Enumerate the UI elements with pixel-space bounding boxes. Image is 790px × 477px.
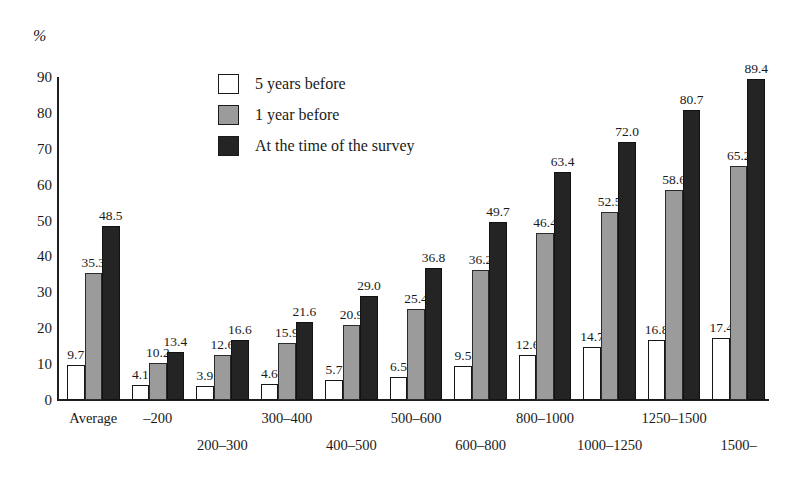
bar-group: 4.110.213.4 (132, 77, 185, 400)
bar-chart: % 0102030405060708090 5 years before1 ye… (0, 0, 790, 477)
bar-1 (601, 212, 619, 400)
bar-value-label: 6.5 (390, 359, 407, 375)
bar-1 (214, 355, 232, 400)
bar-2 (425, 268, 443, 400)
y-tick-80: 80 (10, 104, 52, 121)
x-category-label: 1500– (721, 437, 757, 454)
bar-value-label: 29.0 (357, 278, 381, 294)
bar-value-label: 5.7 (326, 362, 343, 378)
bar-1 (343, 325, 361, 400)
x-category-label: 300–400 (262, 410, 313, 427)
bar-1 (407, 309, 425, 400)
y-tick-60: 60 (10, 176, 52, 193)
bar-2 (747, 79, 765, 400)
bar-group: 3.912.616.6 (196, 77, 249, 400)
y-tick-10: 10 (10, 356, 52, 373)
bar-2 (489, 222, 507, 400)
bar-0 (648, 340, 666, 400)
bar-value-label: 89.4 (744, 61, 768, 77)
plot-area: 9.735.348.54.110.213.43.912.616.64.615.9… (59, 77, 769, 400)
bar-value-label: 63.4 (551, 154, 575, 170)
bar-0 (67, 365, 85, 400)
bar-0 (583, 347, 601, 400)
y-tick-90: 90 (10, 69, 52, 86)
bar-1 (665, 190, 683, 400)
bar-2 (683, 110, 701, 400)
bar-value-label: 72.0 (615, 124, 639, 140)
y-tick-20: 20 (10, 320, 52, 337)
bar-2 (231, 340, 249, 400)
bar-0 (390, 377, 408, 400)
bar-value-label: 13.4 (164, 334, 188, 350)
bar-0 (132, 385, 150, 400)
bar-value-label: 9.5 (455, 348, 472, 364)
bar-value-label: 21.6 (293, 304, 317, 320)
bar-group: 17.465.289.4 (712, 77, 765, 400)
bar-0 (712, 338, 730, 400)
bar-2 (167, 352, 185, 400)
bar-group: 9.735.348.5 (67, 77, 120, 400)
bar-1 (149, 363, 167, 400)
bar-0 (196, 386, 214, 400)
x-category-label: 1250–1500 (642, 410, 707, 427)
bar-group: 4.615.921.6 (261, 77, 314, 400)
y-tick-70: 70 (10, 140, 52, 157)
bar-value-label: 9.7 (67, 347, 84, 363)
bar-value-label: 36.8 (422, 250, 446, 266)
bar-group: 9.536.249.7 (454, 77, 507, 400)
bar-2 (360, 296, 378, 400)
bar-group: 12.646.463.4 (519, 77, 572, 400)
bar-1 (536, 233, 554, 400)
x-category-label: Average (69, 410, 117, 427)
bar-value-label: 3.9 (196, 368, 213, 384)
x-category-label: 200–300 (197, 437, 248, 454)
bar-value-label: 80.7 (680, 92, 704, 108)
x-category-label: 500–600 (391, 410, 442, 427)
bar-0 (261, 384, 279, 401)
x-category-label: 600–800 (455, 437, 506, 454)
y-tick-30: 30 (10, 284, 52, 301)
bar-1 (278, 343, 296, 400)
bar-group: 6.525.436.8 (390, 77, 443, 400)
bar-0 (325, 380, 343, 400)
bar-value-label: 4.6 (261, 366, 278, 382)
bar-value-label: 49.7 (486, 204, 510, 220)
bar-group: 14.752.572.0 (583, 77, 636, 400)
x-category-label: 800–1000 (516, 410, 574, 427)
x-category-label: 400–500 (326, 437, 377, 454)
y-axis-tick-labels: 0102030405060708090 (0, 0, 52, 477)
bar-2 (618, 142, 636, 400)
bar-0 (454, 366, 472, 400)
bar-group: 16.858.680.7 (648, 77, 701, 400)
y-tick-50: 50 (10, 212, 52, 229)
bar-value-label: 4.1 (132, 367, 149, 383)
y-tick-40: 40 (10, 248, 52, 265)
bar-value-label: 16.6 (228, 322, 252, 338)
bar-group: 5.720.929.0 (325, 77, 378, 400)
bar-1 (85, 273, 103, 400)
x-category-label: 1000–1250 (577, 437, 642, 454)
x-category-label: –200 (143, 410, 172, 427)
bar-2 (296, 322, 314, 400)
y-tick-0: 0 (10, 392, 52, 409)
bar-2 (102, 226, 120, 400)
bar-1 (730, 166, 748, 400)
bar-0 (519, 355, 537, 400)
bar-1 (472, 270, 490, 400)
bar-2 (554, 172, 572, 400)
bar-value-label: 48.5 (99, 208, 123, 224)
